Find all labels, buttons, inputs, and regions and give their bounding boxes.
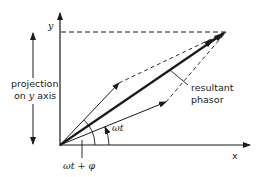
y-axis-label: y bbox=[48, 20, 53, 31]
projection-label-line1: projection bbox=[11, 78, 58, 89]
angle-wt-phi-label: ωt + φ bbox=[63, 160, 95, 171]
parallelogram-dashed-upper bbox=[119, 32, 226, 83]
projection-label-line2: on y axis bbox=[14, 90, 56, 101]
x-axis-label: x bbox=[232, 150, 238, 161]
resultant-leader-line bbox=[170, 70, 188, 85]
projection-prefix: on bbox=[14, 90, 29, 101]
phasor-a-arrow bbox=[60, 83, 119, 145]
angle-wt-label: ωt bbox=[112, 122, 124, 133]
angle-arc-wt bbox=[105, 127, 109, 145]
projection-suffix: axis bbox=[34, 90, 56, 101]
resultant-label-line1: resultant bbox=[191, 82, 233, 93]
resultant-label-line2: phasor bbox=[191, 94, 224, 105]
